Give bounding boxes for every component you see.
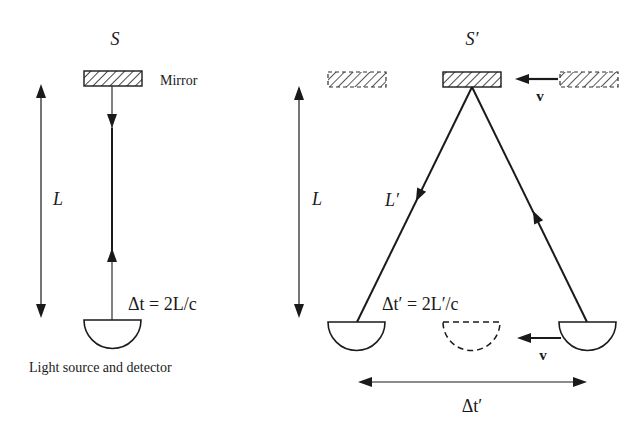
mirror-icon bbox=[84, 71, 142, 86]
left-panel-frame-s: S Mirror L Δt = 2L/c Light source and de… bbox=[29, 29, 198, 375]
interval-arrow bbox=[358, 377, 587, 387]
length-label-l: L bbox=[311, 189, 322, 209]
equation-delta-t: Δt = 2L/c bbox=[128, 294, 197, 314]
light-clock-diagram: S Mirror L Δt = 2L/c Light source and de… bbox=[0, 0, 644, 425]
velocity-arrow-bottom bbox=[517, 333, 561, 343]
path-label-l-prime: L′ bbox=[384, 190, 400, 210]
light-source-detector-icon bbox=[84, 320, 141, 349]
light-source-label: Light source and detector bbox=[29, 360, 172, 375]
interval-label: Δt′ bbox=[462, 396, 483, 416]
detector-right-icon bbox=[559, 322, 616, 351]
length-arrow bbox=[36, 84, 46, 318]
length-label-l: L bbox=[52, 189, 63, 209]
velocity-label-top: v bbox=[536, 88, 544, 104]
velocity-arrow-top bbox=[515, 74, 558, 84]
mirror-icon bbox=[443, 72, 501, 87]
ghost-mirror-right-icon bbox=[560, 72, 618, 87]
equation-delta-t-prime: Δt′ = 2L′/c bbox=[382, 294, 459, 314]
velocity-label-bottom: v bbox=[539, 347, 547, 363]
detector-left-icon bbox=[328, 322, 385, 351]
frame-label-s-prime: S′ bbox=[466, 29, 480, 49]
ghost-detector-icon bbox=[443, 322, 500, 351]
ghost-mirror-left-icon bbox=[328, 72, 386, 87]
frame-label-s: S bbox=[111, 29, 120, 49]
mirror-label: Mirror bbox=[160, 73, 198, 88]
light-beam bbox=[107, 86, 117, 320]
length-arrow bbox=[294, 86, 304, 318]
right-panel-frame-s-prime: S′ v L L′ bbox=[294, 29, 618, 416]
